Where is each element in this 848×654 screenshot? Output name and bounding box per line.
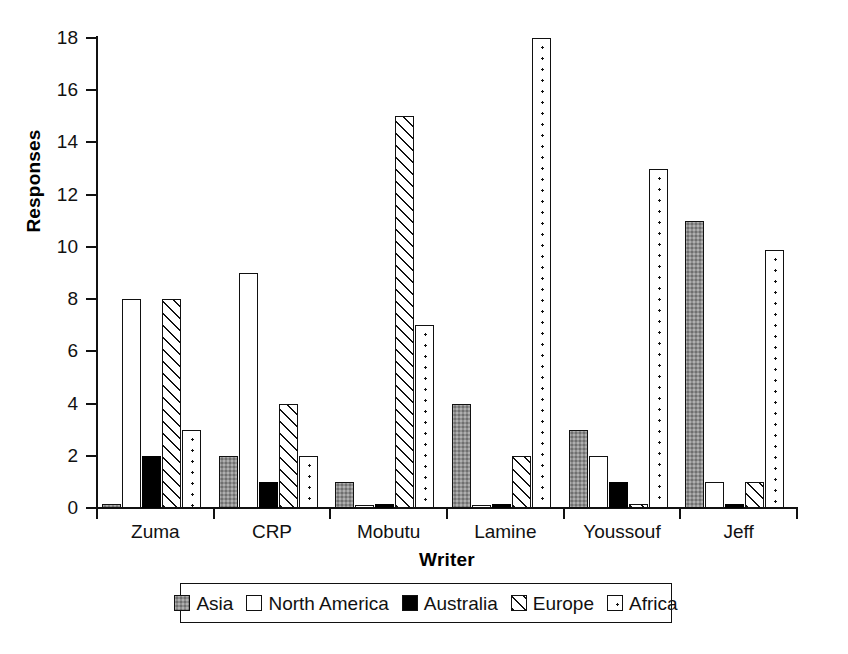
x-axis-tick-label: CRP: [214, 521, 331, 543]
bar-crp-north-america: [239, 273, 258, 508]
bar-jeff-north-america: [705, 482, 724, 508]
y-axis-tick-label: 2: [18, 446, 78, 465]
bar-lamine-europe: [512, 456, 531, 508]
x-axis-tick: [446, 509, 448, 519]
y-axis-tick: [86, 141, 96, 143]
bar-mobutu-africa: [415, 325, 434, 508]
bar-jeff-africa: [765, 250, 784, 509]
legend-label: Europe: [533, 594, 594, 613]
bar-mobutu-asia: [335, 482, 354, 508]
y-axis-tick-label: 16: [18, 80, 78, 99]
bar-lamine-north-america: [472, 505, 491, 508]
bar-crp-europe: [279, 404, 298, 508]
y-axis-tick-label: 10: [18, 237, 78, 256]
x-axis-tick-label: Mobutu: [330, 521, 447, 543]
y-axis-tick: [86, 37, 96, 39]
y-axis-tick-label: 18: [18, 28, 78, 47]
y-axis-tick: [86, 246, 96, 248]
plot-area: [97, 38, 797, 508]
y-axis-tick: [86, 194, 96, 196]
y-axis-tick-label: 0: [18, 498, 78, 517]
y-axis-tick-label: 12: [18, 185, 78, 204]
y-axis-tick: [86, 350, 96, 352]
legend-label: North America: [268, 594, 388, 613]
legend-label: Asia: [196, 594, 233, 613]
legend-entry-australia: Australia: [402, 594, 498, 613]
y-axis-tick: [86, 403, 96, 405]
legend-label: Australia: [424, 594, 498, 613]
bar-jeff-europe: [745, 482, 764, 508]
legend-label: Africa: [629, 594, 678, 613]
bar-crp-asia: [219, 456, 238, 508]
legend-entry-europe: Europe: [511, 594, 594, 613]
bar-crp-australia: [259, 482, 278, 508]
bar-crp-africa: [299, 456, 318, 508]
bar-mobutu-australia: [375, 504, 394, 508]
x-axis-tick-label: Zuma: [97, 521, 214, 543]
x-axis-tick: [563, 509, 565, 519]
legend-entry-asia: Asia: [174, 594, 233, 613]
y-axis-tick-label: 6: [18, 341, 78, 360]
bar-zuma-north-america: [122, 299, 141, 508]
bar-jeff-australia: [725, 504, 744, 508]
x-axis-tick: [96, 509, 98, 519]
legend-entry-north-america: North America: [246, 594, 388, 613]
bar-lamine-asia: [452, 404, 471, 508]
bar-youssouf-europe: [629, 504, 648, 508]
bar-mobutu-north-america: [355, 505, 374, 508]
bar-lamine-africa: [532, 38, 551, 508]
y-axis-tick: [86, 507, 96, 509]
bar-zuma-australia: [142, 456, 161, 508]
legend-swatch-icon: [402, 595, 418, 611]
bar-youssouf-africa: [649, 169, 668, 508]
x-axis-tick: [679, 509, 681, 519]
x-axis-tick: [329, 509, 331, 519]
y-axis-tick: [86, 89, 96, 91]
y-axis-tick-label: 4: [18, 394, 78, 413]
bar-jeff-asia: [685, 221, 704, 508]
bar-mobutu-europe: [395, 116, 414, 508]
y-axis-tick: [86, 455, 96, 457]
y-axis-tick: [86, 298, 96, 300]
bar-youssouf-australia: [609, 482, 628, 508]
bar-youssouf-asia: [569, 430, 588, 508]
legend-swatch-icon: [174, 595, 190, 611]
x-axis-tick: [796, 509, 798, 519]
legend-swatch-icon: [511, 595, 527, 611]
bar-zuma-africa: [182, 430, 201, 508]
bar-youssouf-north-america: [589, 456, 608, 508]
legend-entry-africa: Africa: [607, 594, 678, 613]
x-axis-tick: [213, 509, 215, 519]
bar-zuma-asia: [102, 504, 121, 508]
y-axis-tick-label: 8: [18, 289, 78, 308]
x-axis-title: Writer: [97, 549, 797, 571]
x-axis-tick-label: Jeff: [680, 521, 797, 543]
x-axis-tick-label: Youssouf: [564, 521, 681, 543]
x-axis-tick-label: Lamine: [447, 521, 564, 543]
bar-lamine-australia: [492, 504, 511, 508]
legend-swatch-icon: [246, 595, 262, 611]
bar-chart-figure: Responses 024681012141618 ZumaCRPMobutuL…: [0, 0, 848, 654]
legend-swatch-icon: [607, 595, 623, 611]
bar-zuma-europe: [162, 299, 181, 508]
chart-legend: AsiaNorth AmericaAustraliaEuropeAfrica: [180, 583, 672, 623]
y-axis-tick-label: 14: [18, 132, 78, 151]
